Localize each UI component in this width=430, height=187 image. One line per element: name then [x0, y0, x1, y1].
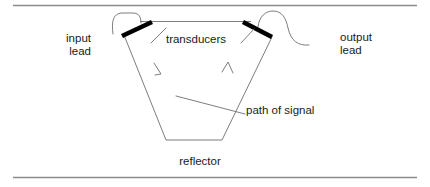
right-transducer-bar: [243, 22, 272, 37]
label-output-lead: output lead: [340, 31, 410, 57]
signal-path-trapezoid: [124, 35, 272, 140]
path-of-signal-leader: [176, 96, 245, 114]
left-transducer-bar: [122, 22, 152, 36]
direction-chevron-right: [222, 62, 233, 73]
label-input-lead: input lead: [27, 32, 91, 58]
label-path-of-signal: path of signal: [246, 104, 356, 117]
direction-chevron-left: [154, 63, 161, 75]
label-reflector: reflector: [152, 155, 248, 168]
label-transducers: transducers: [153, 33, 239, 46]
figure-root: input lead transducers output lead path …: [0, 0, 430, 187]
transducers-leader-right: [241, 29, 254, 43]
output-lead-wire: [258, 11, 309, 45]
